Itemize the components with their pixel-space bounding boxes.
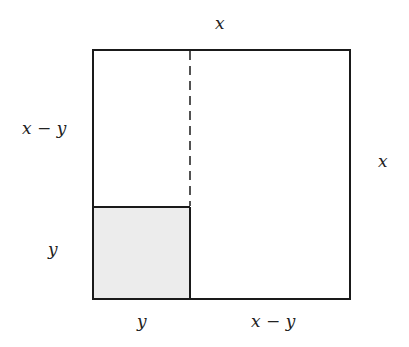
label-bottom-x-minus-y: x − y (251, 313, 295, 330)
label-left-x-minus-y: x − y (22, 120, 66, 137)
label-top-x: x (215, 15, 225, 32)
diagram-canvas (0, 0, 409, 347)
label-left-y: y (48, 241, 58, 258)
inner-square-shaded (94, 207, 190, 299)
label-bottom-y: y (137, 313, 147, 330)
label-right-x: x (378, 153, 388, 170)
